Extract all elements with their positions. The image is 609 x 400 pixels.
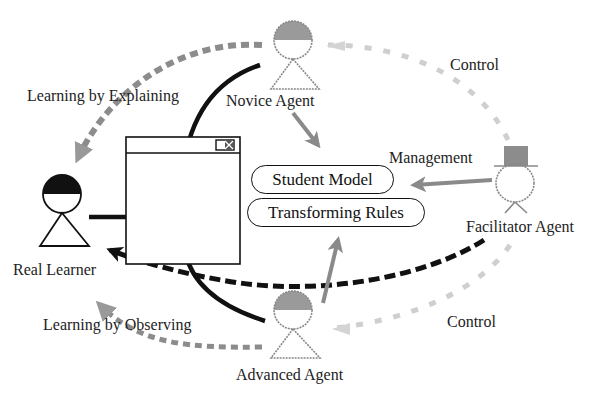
real-learner-figure xyxy=(40,175,89,246)
edge-novice-to-student-model xyxy=(293,113,318,145)
advanced-agent-figure xyxy=(271,291,320,358)
edge-label-control-bottom: Control xyxy=(447,314,496,330)
edge-label-learning-by-explaining: Learning by Explaining xyxy=(27,88,179,104)
facilitator-agent-figure xyxy=(494,146,538,213)
transforming-rules-box: Transforming Rules xyxy=(247,198,425,227)
node-label-facilitator-agent: Facilitator Agent xyxy=(466,219,574,235)
node-label-real-learner: Real Learner xyxy=(13,262,96,278)
edge-management xyxy=(414,180,492,185)
window-control-icon xyxy=(216,140,234,150)
node-label-advanced-agent: Advanced Agent xyxy=(236,367,343,383)
edge-advanced-to-transforming-rules xyxy=(323,240,338,303)
edge-label-management: Management xyxy=(389,150,473,166)
agent-learning-diagram: Student Model Transforming Rules Learnin… xyxy=(0,0,609,400)
edge-label-learning-by-observing: Learning by Observing xyxy=(43,317,191,333)
edge-label-control-top: Control xyxy=(450,57,499,73)
interface-window xyxy=(126,137,240,264)
node-label-novice-agent: Novice Agent xyxy=(226,93,314,109)
student-model-box: Student Model xyxy=(251,165,394,194)
novice-agent-figure xyxy=(271,21,319,89)
